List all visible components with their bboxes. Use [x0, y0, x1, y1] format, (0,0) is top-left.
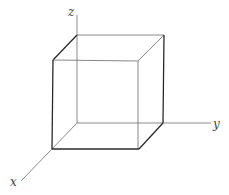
- cube-edge-back-right: [163, 35, 164, 123]
- y-axis-label: y: [213, 118, 220, 130]
- cube-edge-bottom-right-diagonal: [139, 123, 163, 149]
- cube-edge-top-left-diagonal: [53, 35, 77, 60]
- x-axis: [21, 123, 77, 181]
- z-axis-label: z: [68, 6, 74, 18]
- cube-edge-top-right-diagonal: [138, 35, 164, 61]
- cube-edge-front-top: [53, 60, 138, 61]
- x-axis-label: x: [10, 176, 17, 188]
- cube-edge-front-left: [52, 60, 53, 149]
- cube-diagram: [0, 0, 229, 195]
